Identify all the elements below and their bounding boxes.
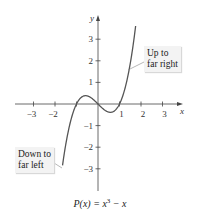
y-axis-label: y xyxy=(89,13,94,23)
y-tick-label: 2 xyxy=(89,56,94,66)
leader-left xyxy=(54,163,62,168)
x-tick-label: −2 xyxy=(48,109,58,119)
caption-rhs: − x xyxy=(110,198,126,209)
caption-lhs: P(x) = x xyxy=(73,198,106,209)
y-tick-label: 1 xyxy=(89,77,94,87)
annotation-line: far left xyxy=(18,160,51,171)
x-tick-label: 3 xyxy=(162,109,167,119)
chart-caption: P(x) = x3 − x xyxy=(0,197,200,209)
x-tick-label: 1 xyxy=(119,109,124,119)
x-tick-label: 2 xyxy=(141,109,146,119)
series xyxy=(63,26,136,165)
y-axis-arrow xyxy=(96,15,100,21)
y-tick-label: −2 xyxy=(83,142,93,152)
annotation-line: Down to xyxy=(18,149,51,160)
curve-P xyxy=(63,26,136,165)
annotation-down-to-far-left: Down to far left xyxy=(15,147,54,173)
callout-leaders xyxy=(54,62,144,168)
y-tick-label: −3 xyxy=(83,164,93,174)
y-tick-label: −1 xyxy=(83,121,93,131)
annotation-line: far right xyxy=(147,59,178,70)
annotation-up-to-far-right: Up to far right xyxy=(144,46,181,72)
x-axis-label: x xyxy=(179,106,184,116)
x-tick-label: −3 xyxy=(27,109,37,119)
y-tick-label: 3 xyxy=(89,34,94,44)
annotation-line: Up to xyxy=(147,48,178,59)
chart-plot: xy −3−2123−3−2−1123 xyxy=(0,0,200,212)
